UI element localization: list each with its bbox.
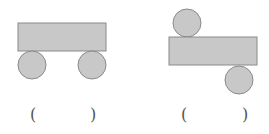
circle-shape	[78, 51, 106, 79]
rectangle-shape	[169, 37, 257, 65]
figure-right	[169, 9, 257, 94]
rectangle-shape	[18, 23, 106, 51]
answer-close-paren-left: )	[90, 107, 96, 123]
circle-shape	[18, 51, 46, 79]
figure-left	[18, 23, 106, 79]
answer-close-paren-right: )	[242, 107, 248, 123]
answer-open-paren-right: (	[181, 107, 187, 123]
circle-shape	[173, 9, 201, 37]
diagram-canvas	[0, 0, 269, 134]
answer-open-paren-left: (	[30, 107, 36, 123]
circle-shape	[225, 66, 253, 94]
